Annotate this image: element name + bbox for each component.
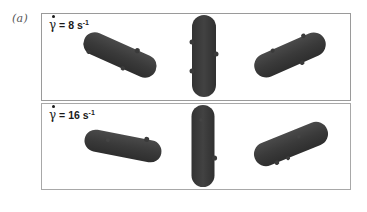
panel-shear-rate-16: γ = 16 s-1 <box>41 103 351 190</box>
equals-sign: = <box>59 19 65 31</box>
unit-exponent: -1 <box>89 109 95 116</box>
dot-accent-icon <box>52 15 55 18</box>
shear-rate-label: γ = 16 s-1 <box>49 109 95 121</box>
shear-rate-label: γ = 8 s-1 <box>49 19 89 31</box>
gamma-dot-symbol: γ <box>49 19 56 31</box>
shear-rate-value: 8 <box>68 19 74 31</box>
gamma-symbol: γ <box>49 108 56 122</box>
gamma-symbol: γ <box>49 18 56 32</box>
gamma-dot-symbol: γ <box>49 109 56 121</box>
dot-accent-icon <box>52 105 55 108</box>
panel-shear-rate-8: γ = 8 s-1 <box>41 13 351 101</box>
figure-label: (a) <box>12 12 28 25</box>
unit-exponent: -1 <box>83 19 89 26</box>
shear-rate-value: 16 <box>68 109 80 121</box>
equals-sign: = <box>59 109 65 121</box>
